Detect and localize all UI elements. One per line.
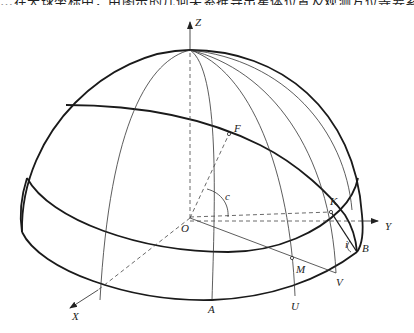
- angle-c-label: c: [225, 190, 230, 202]
- point-b-label: B: [362, 242, 369, 254]
- of-dashed-line: [190, 134, 229, 218]
- point-u-label: U: [291, 300, 300, 312]
- base-rim-front: [22, 232, 357, 300]
- equator-band: [27, 178, 358, 252]
- x-axis-dashed: [98, 218, 190, 290]
- point-k-label: K: [329, 195, 338, 207]
- dome-outline: [22, 50, 363, 252]
- ov-line: [190, 218, 336, 273]
- meridian-4: [190, 50, 336, 273]
- meridian-2: [190, 50, 214, 300]
- point-m-marker: [290, 256, 293, 259]
- x-axis-solid: [70, 290, 98, 308]
- meridian-1: [100, 50, 190, 300]
- z-axis-label: Z: [195, 16, 202, 28]
- point-f-marker: [227, 132, 230, 135]
- point-k-marker: [329, 210, 332, 213]
- hemisphere-diagram: Z Y X O F K M V B U A c i: [0, 0, 414, 333]
- x-axis-label: X: [71, 310, 80, 322]
- origin-label: O: [181, 222, 189, 234]
- point-f-label: F: [233, 122, 241, 134]
- angle-i-label: i: [345, 238, 348, 250]
- meridian-3: [190, 50, 295, 296]
- point-m-label: M: [295, 263, 306, 275]
- y-axis-label: Y: [385, 220, 393, 232]
- ok-dashed-line: [190, 212, 331, 217]
- point-a-label: A: [207, 303, 215, 315]
- point-v-label: V: [336, 276, 344, 288]
